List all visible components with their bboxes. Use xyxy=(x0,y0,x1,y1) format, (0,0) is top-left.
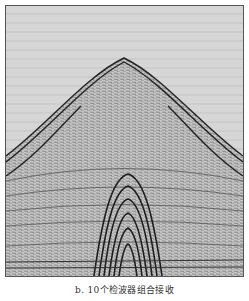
seismic-traces xyxy=(6,6,243,276)
seismic-record-image xyxy=(5,5,244,277)
figure-caption: b. 10个检波器组合接收 xyxy=(0,283,249,296)
